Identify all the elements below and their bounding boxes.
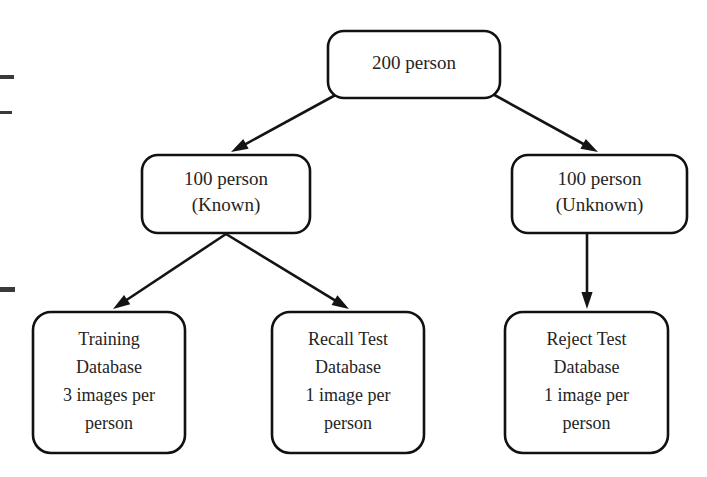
unknown-person-node-label-line-2: (Unknown)	[556, 194, 644, 216]
edge-known-to-recall-line	[226, 234, 337, 302]
training-database-node-label-line-4: person	[85, 413, 133, 433]
flowchart-canvas: 200 person100 person(Known)100 person(Un…	[0, 0, 707, 477]
training-database-node-label-line-2: Database	[76, 357, 142, 377]
total-person-node[interactable]: 200 person	[328, 31, 500, 98]
edge-root-to-known-arrowhead	[231, 139, 249, 152]
scan-artifact-mark-1	[0, 75, 14, 79]
reject-test-database-node-label-line-4: person	[563, 413, 611, 433]
edge-known-to-recall	[226, 234, 349, 309]
reject-test-database-node[interactable]: Reject TestDatabase1 image perperson	[505, 312, 668, 453]
known-person-node-label-line-2: (Known)	[192, 194, 261, 216]
edge-known-to-training	[113, 234, 226, 309]
unknown-person-node-label-line-1: 100 person	[558, 168, 642, 189]
known-person-node-label-line-1: 100 person	[184, 168, 268, 189]
nodes-layer: 200 person100 person(Known)100 person(Un…	[33, 31, 687, 453]
recall-test-database-node-label-line-4: person	[324, 413, 372, 433]
recall-test-database-node[interactable]: Recall TestDatabase1 image perperson	[272, 312, 424, 453]
flowchart-diagram: 200 person100 person(Known)100 person(Un…	[0, 0, 707, 477]
known-person-node[interactable]: 100 person(Known)	[142, 155, 310, 233]
edge-root-to-unknown	[489, 92, 598, 152]
edge-known-to-training-line	[125, 234, 226, 301]
reject-test-database-node-label-line-3: 1 image per	[544, 385, 629, 405]
recall-test-database-node-label-line-2: Database	[315, 357, 381, 377]
reject-test-database-node-label-line-2: Database	[554, 357, 620, 377]
edge-known-to-training-arrowhead	[113, 295, 130, 309]
edge-root-to-unknown-arrowhead	[580, 139, 598, 152]
scan-artifact-mark-3	[0, 287, 15, 292]
recall-test-database-node-label-line-3: 1 image per	[306, 385, 391, 405]
reject-test-database-node-label-line-1: Reject Test	[547, 329, 627, 349]
unknown-person-node[interactable]: 100 person(Unknown)	[512, 155, 687, 233]
edge-root-to-unknown-line	[489, 92, 586, 145]
edge-root-to-known-line	[243, 92, 341, 145]
edge-known-to-recall-arrowhead	[332, 295, 349, 309]
total-person-node-label-line-1: 200 person	[372, 52, 456, 73]
edge-unknown-to-reject-arrowhead	[581, 292, 592, 309]
scan-artifacts-layer	[0, 75, 15, 292]
recall-test-database-node-label-line-1: Recall Test	[308, 329, 388, 349]
training-database-node-label-line-3: 3 images per	[63, 385, 155, 405]
edge-unknown-to-reject	[581, 234, 592, 309]
scan-artifact-mark-2	[0, 111, 12, 114]
training-database-node[interactable]: TrainingDatabase3 images perperson	[33, 312, 185, 453]
edge-root-to-known	[231, 92, 341, 152]
training-database-node-label-line-1: Training	[78, 329, 139, 349]
